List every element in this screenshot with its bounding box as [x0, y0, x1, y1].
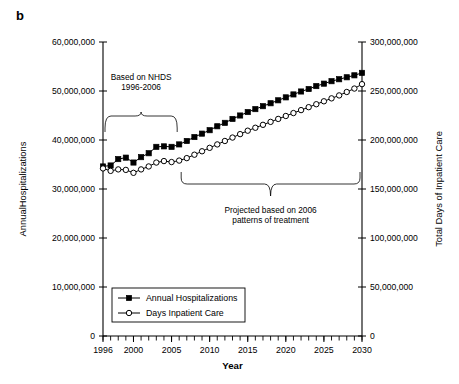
datapoint-marker	[283, 95, 288, 100]
datapoint-marker	[108, 168, 113, 173]
datapoint-marker	[260, 122, 265, 127]
datapoint-marker	[291, 110, 296, 115]
datapoint-marker	[169, 159, 174, 164]
datapoint-marker	[100, 166, 105, 171]
datapoint-marker	[344, 89, 349, 94]
chart-canvas: 010,000,00020,000,00030,000,00040,000,00…	[0, 0, 459, 384]
x-ticklabel: 1996	[93, 345, 113, 355]
datapoint-marker	[123, 155, 128, 160]
legend-label-1: Days Inpatient Care	[146, 308, 224, 318]
datapoint-marker	[199, 131, 204, 136]
datapoint-marker	[215, 142, 220, 147]
x-ticklabel: 2010	[200, 345, 220, 355]
datapoint-marker	[352, 73, 357, 78]
nhds-brace	[105, 112, 177, 132]
datapoint-marker	[161, 144, 166, 149]
datapoint-marker	[321, 81, 326, 86]
datapoint-marker	[245, 128, 250, 133]
datapoint-marker	[344, 75, 349, 80]
y-axis-title-right: Total Days of Inpatient Care	[433, 131, 444, 247]
datapoint-marker	[253, 107, 258, 112]
datapoint-marker	[108, 163, 113, 168]
y-ticklabel-left: 40,000,000	[52, 135, 95, 145]
datapoint-marker	[138, 155, 143, 160]
x-ticklabel: 2025	[314, 345, 334, 355]
datapoint-marker	[146, 151, 151, 156]
figure-panel-b: b 010,000,00020,000,00030,000,00040,000,…	[0, 0, 459, 384]
datapoint-marker	[131, 160, 136, 165]
legend-marker	[126, 310, 131, 315]
datapoint-marker	[237, 131, 242, 136]
datapoint-marker	[154, 160, 159, 165]
nhds-annotation-line2: 1996-2006	[121, 82, 161, 92]
x-ticklabel: 2005	[162, 345, 182, 355]
datapoint-marker	[222, 120, 227, 125]
y-ticklabel-right: 50,000,000	[370, 282, 413, 292]
projection-annotation-line1: Projected based on 2006	[224, 205, 317, 215]
y-ticklabel-right: 250,000,000	[370, 86, 418, 96]
legend-label-0: Annual Hospitalizations	[146, 293, 238, 303]
datapoint-marker	[116, 167, 121, 172]
y-ticklabel-left: 50,000,000	[52, 86, 95, 96]
datapoint-marker	[329, 96, 334, 101]
datapoint-marker	[276, 116, 281, 121]
datapoint-marker	[230, 135, 235, 140]
datapoint-marker	[268, 119, 273, 124]
x-ticklabel: 2030	[352, 345, 372, 355]
datapoint-marker	[314, 102, 319, 107]
datapoint-marker	[177, 142, 182, 147]
datapoint-marker	[306, 86, 311, 91]
x-ticklabel: 2020	[276, 345, 296, 355]
datapoint-marker	[146, 164, 151, 169]
x-ticklabel: 2000	[124, 345, 144, 355]
datapoint-marker	[222, 138, 227, 143]
datapoint-marker	[291, 92, 296, 97]
datapoint-marker	[359, 81, 364, 86]
y-ticklabel-right: 300,000,000	[370, 37, 418, 47]
datapoint-marker	[169, 144, 174, 149]
datapoint-marker	[161, 158, 166, 163]
datapoint-marker	[298, 89, 303, 94]
datapoint-marker	[336, 93, 341, 98]
y-ticklabel-left: 0	[90, 331, 95, 341]
y-axis-title-left: AnnualHospitalizations	[17, 141, 28, 236]
x-ticklabel: 2015	[238, 345, 258, 355]
datapoint-marker	[154, 144, 159, 149]
datapoint-marker	[260, 104, 265, 109]
y-ticklabel-right: 0	[370, 331, 375, 341]
datapoint-marker	[138, 167, 143, 172]
datapoint-marker	[283, 113, 288, 118]
y-ticklabel-right: 200,000,000	[370, 135, 418, 145]
datapoint-marker	[298, 107, 303, 112]
datapoint-marker	[238, 113, 243, 118]
datapoint-marker	[184, 155, 189, 160]
projection-annotation-line2: patterns of treatment	[232, 215, 309, 225]
datapoint-marker	[329, 79, 334, 84]
y-ticklabel-left: 20,000,000	[52, 233, 95, 243]
datapoint-marker	[321, 99, 326, 104]
datapoint-marker	[215, 124, 220, 129]
datapoint-marker	[199, 149, 204, 154]
x-axis-title: Year	[222, 360, 243, 371]
datapoint-marker	[306, 104, 311, 109]
datapoint-marker	[337, 77, 342, 82]
datapoint-marker	[123, 167, 128, 172]
datapoint-marker	[176, 158, 181, 163]
datapoint-marker	[192, 134, 197, 139]
nhds-annotation-line1: Based on NHDS	[111, 72, 172, 82]
datapoint-marker	[268, 101, 273, 106]
datapoint-marker	[230, 116, 235, 121]
datapoint-marker	[359, 70, 364, 75]
datapoint-marker	[253, 125, 258, 130]
y-ticklabel-right: 100,000,000	[370, 233, 418, 243]
y-ticklabel-left: 10,000,000	[52, 282, 95, 292]
y-ticklabel-left: 60,000,000	[52, 37, 95, 47]
legend-marker	[126, 295, 131, 300]
y-ticklabel-left: 30,000,000	[52, 184, 95, 194]
datapoint-marker	[276, 98, 281, 103]
datapoint-marker	[116, 157, 121, 162]
datapoint-marker	[352, 86, 357, 91]
datapoint-marker	[314, 84, 319, 89]
datapoint-marker	[184, 138, 189, 143]
datapoint-marker	[207, 128, 212, 133]
